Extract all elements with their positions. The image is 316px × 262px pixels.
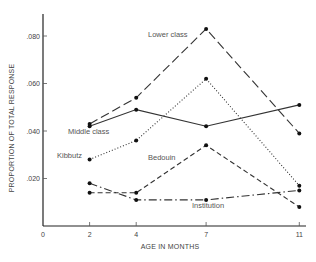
label-bedouin: Bedouin	[148, 153, 176, 162]
data-point-kibbutz	[297, 184, 301, 188]
series-group	[88, 27, 302, 209]
x-ticks: 024711	[41, 222, 303, 238]
data-point-institution	[88, 181, 92, 185]
data-point-lower-class	[297, 131, 301, 135]
data-point-kibbutz	[134, 139, 138, 143]
series-bedouin	[88, 143, 302, 209]
y-ticks: .020.040.060.080	[26, 33, 47, 183]
y-tick-label: .080	[26, 33, 40, 40]
data-point-bedouin	[297, 205, 301, 209]
series-institution	[88, 181, 302, 202]
axes	[43, 14, 306, 226]
y-axis-title: PROPORTION OF TOTAL RESPONSE	[8, 64, 15, 193]
series-line-kibbutz	[90, 79, 300, 186]
y-tick-label: .020	[26, 175, 40, 182]
line-chart: .020.040.060.080 024711 AGE IN MONTHS PR…	[0, 0, 316, 262]
data-point-kibbutz	[88, 158, 92, 162]
data-point-institution	[134, 198, 138, 202]
data-point-middle-class	[297, 103, 301, 107]
x-tick-label: 11	[296, 231, 303, 238]
data-point-middle-class	[204, 124, 208, 128]
x-tick-label: 7	[204, 231, 208, 238]
series-line-middle-class	[90, 105, 300, 126]
data-point-bedouin	[88, 191, 92, 195]
series-line-bedouin	[90, 145, 300, 207]
series-kibbutz	[88, 77, 302, 188]
y-tick-label: .040	[26, 128, 40, 135]
x-tick-label: 4	[134, 231, 138, 238]
label-middle-class: Middle class	[68, 127, 110, 136]
label-kibbutz: Kibbutz	[57, 151, 82, 160]
x-tick-label: 2	[88, 231, 92, 238]
data-point-middle-class	[134, 108, 138, 112]
data-point-kibbutz	[204, 77, 208, 81]
x-tick-label: 0	[41, 231, 45, 238]
label-lower-class: Lower class	[148, 30, 188, 39]
data-point-bedouin	[204, 143, 208, 147]
data-point-lower-class	[134, 96, 138, 100]
y-tick-label: .060	[26, 80, 40, 87]
data-point-bedouin	[134, 191, 138, 195]
data-point-institution	[297, 188, 301, 192]
label-institution: Institution	[192, 201, 224, 210]
series-line-lower-class	[90, 29, 300, 133]
data-point-lower-class	[204, 27, 208, 31]
series-lower-class	[88, 27, 302, 136]
x-axis-title: AGE IN MONTHS	[141, 243, 200, 250]
